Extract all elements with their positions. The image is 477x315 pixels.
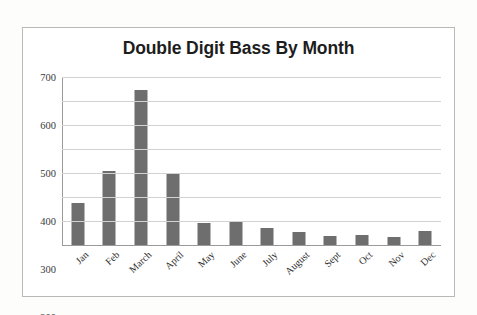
bar: [292, 232, 305, 245]
gridline: 600: [62, 101, 441, 102]
bar-slot: [188, 77, 220, 245]
gridline: 100: [62, 221, 441, 222]
bar-slot: [378, 77, 410, 245]
axis-baseline: 0: [62, 245, 441, 246]
plot-area: 7006005004003002001000JanFebMarchAprilMa…: [62, 77, 441, 245]
x-axis-tick-label: June: [227, 249, 248, 270]
gridline: 700: [62, 77, 441, 78]
y-axis-tick-label: 200: [40, 312, 56, 315]
y-axis-tick-label: 300: [40, 264, 56, 275]
bar-slot: [220, 77, 252, 245]
bar: [324, 236, 337, 245]
x-axis-tick-label: Nov: [386, 249, 406, 269]
x-axis-tick-label: July: [260, 249, 280, 268]
chart-title: Double Digit Bass By Month: [23, 38, 454, 59]
bar: [229, 222, 242, 245]
bar-slot: [346, 77, 378, 245]
bar-slot: [409, 77, 441, 245]
bar-slot: [94, 77, 126, 245]
x-axis-tick-label: April: [162, 249, 185, 271]
bar: [198, 223, 211, 245]
bar: [166, 173, 179, 245]
y-axis-tick-label: 700: [40, 72, 56, 83]
bar: [356, 235, 369, 245]
bar-slot: [62, 77, 94, 245]
x-axis-tick-label: Dec: [418, 249, 437, 268]
bar-slot: [157, 77, 189, 245]
y-axis-tick-label: 500: [40, 168, 56, 179]
gridline: 300: [62, 173, 441, 174]
scanned-page: Double Digit Bass By Month 7006005004003…: [0, 0, 477, 315]
gridline: 500: [62, 125, 441, 126]
x-axis-tick-label: March: [127, 249, 154, 275]
y-axis-tick-label: 400: [40, 216, 56, 227]
x-axis-tick-label: Sept: [322, 249, 343, 269]
y-axis-tick-label: 600: [40, 120, 56, 131]
bar: [261, 228, 274, 245]
bar: [419, 231, 432, 245]
bar: [103, 171, 116, 245]
bar-series: [62, 77, 441, 245]
bar: [71, 203, 84, 245]
x-axis-tick-label: Feb: [103, 249, 121, 267]
chart-frame: Double Digit Bass By Month 7006005004003…: [22, 27, 455, 297]
gridline: 400: [62, 149, 441, 150]
x-axis-tick-label: Oct: [356, 249, 374, 267]
bar-slot: [315, 77, 347, 245]
bar: [387, 237, 400, 245]
x-axis-tick-label: August: [283, 249, 312, 277]
x-axis-tick-label: Jan: [73, 249, 90, 266]
bar-slot: [125, 77, 157, 245]
x-axis-tick-label: May: [196, 249, 217, 270]
gridline: 200: [62, 197, 441, 198]
bar-slot: [252, 77, 284, 245]
bar-slot: [283, 77, 315, 245]
